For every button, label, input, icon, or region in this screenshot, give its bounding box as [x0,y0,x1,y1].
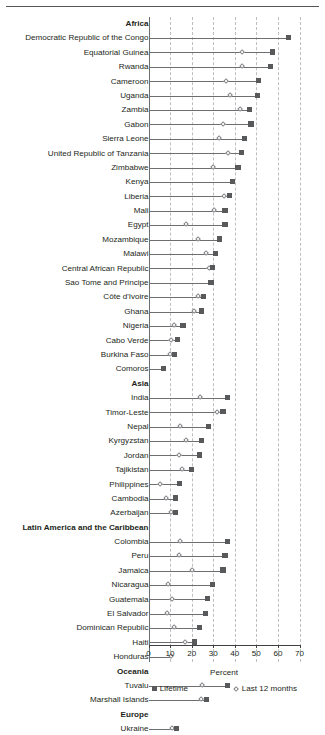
x-tick-50 [256,645,257,648]
row-label: Kyrgyzstan [108,434,148,448]
row-label: Mali [134,204,149,218]
row-label: Philippines [109,478,148,492]
row-track [149,463,300,477]
connector-line [149,499,176,500]
plot-area: AfricaDemocratic Republic of the CongoEq… [0,17,325,662]
x-axis-line [149,645,300,646]
lifetime-marker [173,495,178,500]
last-12-months-marker [171,625,177,631]
row-track [149,305,300,319]
last-12-months-marker [191,308,197,314]
row-label: Honduras [113,650,148,664]
legend-label-lifetime: Lifetime [160,684,188,693]
last-12-months-marker [164,610,170,616]
row-label: Ghana [124,305,148,319]
x-tick-20 [192,645,193,648]
row-track [149,218,300,232]
row-track [149,334,300,348]
row-label: Cabo Verde [106,334,149,348]
row-label: United Republic of Tanzania [48,147,149,161]
lifetime-marker [255,93,260,98]
x-tick-70 [300,645,301,648]
last-12-months-marker [237,106,243,112]
group-header-row: Africa [0,17,325,31]
row-label: Equatorial Guinea [84,46,149,60]
connector-line [149,412,223,413]
x-axis-label: Percent [149,668,300,677]
data-row: El Salvador [0,607,325,621]
connector-line [149,700,207,701]
row-track [149,46,300,60]
lifetime-marker [227,193,232,198]
row-track [149,607,300,621]
row-label: Liberia [124,190,148,204]
row-label: Jordan [124,449,149,463]
row-track [149,60,300,74]
connector-line [149,52,273,53]
lifetime-marker [217,236,222,241]
row-label: Nepal [127,420,148,434]
row-label: Egypt [128,218,149,232]
data-row: Timor-Leste [0,406,325,420]
connector-line [149,398,228,399]
row-track [149,204,300,218]
row-label: Nicaragua [112,578,149,592]
x-tick-10 [170,645,171,648]
connector-line [149,614,206,615]
data-row: Liberia [0,190,325,204]
data-row: Mali [0,204,325,218]
lifetime-marker [174,726,179,731]
row-label: Burkina Faso [101,348,149,362]
data-row: Uganda [0,89,325,103]
row-label: Dominican Republic [77,621,149,635]
data-row: Nicaragua [0,578,325,592]
row-label: Peru [131,549,148,563]
row-label: Cameroon [111,75,149,89]
last-12-months-marker [210,164,216,170]
last-12-months-marker [239,49,245,55]
last-12-months-marker [171,322,177,328]
lifetime-marker [222,208,227,213]
lifetime-marker [208,280,213,285]
x-tick-60 [278,645,279,648]
row-track [149,247,300,261]
row-track [149,406,300,420]
connector-line [149,124,251,125]
row-track [149,722,300,735]
last-12-months-marker [183,222,189,228]
lifetime-marker [222,222,227,227]
last-12-months-marker [168,337,174,343]
data-row: Cameroon [0,75,325,89]
lifetime-marker [256,78,261,83]
last-12-months-marker [179,466,185,472]
last-12-months-marker [216,135,222,141]
row-label: Jamaica [118,564,148,578]
connector-line [149,297,204,298]
connector-line [149,283,212,284]
row-label: Côte d'Ivoire [103,290,148,304]
row-track [149,103,300,117]
connector-line [149,240,220,241]
connector-line [149,96,258,97]
data-row: Philippines [0,478,325,492]
connector-line [149,642,195,643]
top-rule [6,6,319,7]
data-row: Dominican Republic [0,621,325,635]
row-label: Uganda [120,89,148,103]
data-row: Gabon [0,118,325,132]
lifetime-marker [242,136,247,141]
lifetime-marker [239,150,244,155]
data-row: Tajikistan [0,463,325,477]
connector-line [149,67,271,68]
row-track [149,578,300,592]
data-row: Guatemala [0,593,325,607]
data-row: Mozambique [0,233,325,247]
row-label: Cambodia [112,492,149,506]
diamond-marker-icon [233,686,239,692]
data-row: Comoros [0,362,325,376]
row-label: Mozambique [102,233,148,247]
data-row: Malawi [0,247,325,261]
row-label: Rwanda [119,60,149,74]
data-row: Equatorial Guinea [0,46,325,60]
